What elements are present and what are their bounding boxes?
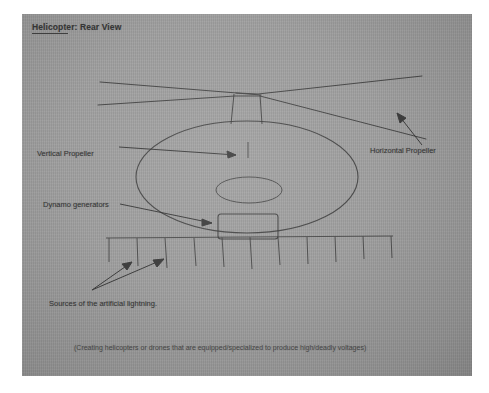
label-lightning-sources: Sources of the artificial lightning. bbox=[49, 299, 157, 308]
photographed-sheet: Helicopter: Rear View Vertical Propeller… bbox=[22, 14, 472, 376]
annotation-arrows bbox=[92, 113, 422, 290]
arrow-line-vertical-propeller bbox=[119, 147, 236, 155]
rake-prong-2 bbox=[137, 238, 138, 266]
page-title: Helicopter: Rear View bbox=[32, 22, 121, 32]
arrow-line-dynamo bbox=[120, 204, 212, 223]
arrow-head-dynamo bbox=[202, 219, 212, 226]
rotor-mast bbox=[231, 94, 262, 124]
arrow-head-horizontal-propeller bbox=[397, 113, 406, 123]
title-underline bbox=[32, 33, 68, 34]
mast-left-line bbox=[231, 94, 234, 124]
rake-crossbar bbox=[106, 236, 393, 238]
label-horizontal-propeller: Horizontal Propeller bbox=[370, 146, 436, 155]
rake-prong-9 bbox=[335, 236, 336, 262]
mast-right-line bbox=[260, 95, 262, 124]
dynamo-generator-box bbox=[218, 214, 278, 239]
rake-prong-3 bbox=[165, 238, 167, 268]
label-vertical-propeller: Vertical Propeller bbox=[37, 149, 94, 158]
arrow-head-lightning-2 bbox=[153, 259, 164, 267]
rake-prong-10 bbox=[363, 236, 364, 259]
label-dynamo-generators: Dynamo generators bbox=[43, 200, 109, 209]
diagram-caption: (Creating helicopters or drones that are… bbox=[74, 344, 366, 351]
arrow-head-vertical-propeller bbox=[227, 151, 236, 158]
rake-prong-4 bbox=[194, 238, 196, 266]
vertical-propeller-ellipse bbox=[216, 177, 282, 203]
rotor-blade-upper-line bbox=[100, 76, 422, 94]
rotor-group bbox=[98, 76, 426, 139]
arrow-head-lightning-1 bbox=[122, 262, 132, 270]
rake-prong-11 bbox=[391, 236, 392, 258]
rake-prong-6 bbox=[250, 237, 252, 269]
rake-prong-7 bbox=[278, 237, 280, 265]
helicopter-sketch-drawing bbox=[22, 14, 472, 376]
electrode-rake bbox=[106, 236, 393, 269]
rake-prong-8 bbox=[307, 237, 308, 264]
rake-prong-5 bbox=[222, 237, 224, 267]
